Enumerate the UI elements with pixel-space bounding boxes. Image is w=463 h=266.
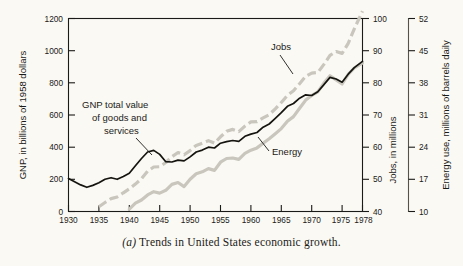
xtick-1955: 1955	[211, 215, 230, 225]
x-axis-ticks	[69, 205, 363, 212]
figure-caption-text: Trends in United States economic growth.	[139, 236, 341, 248]
energy-tick-17: 17	[419, 174, 429, 184]
annotation-gnp-line1: GNP total value	[82, 99, 148, 110]
jobs-axis-title: Jobs, in millions	[387, 116, 398, 183]
gnp-tick-600: 600	[49, 110, 63, 120]
xtick-1978: 1978	[354, 215, 373, 225]
gnp-tick-200: 200	[49, 174, 63, 184]
gnp-axis-ticks	[69, 19, 76, 212]
xtick-1945: 1945	[150, 215, 169, 225]
annotation-jobs: Jobs	[271, 41, 293, 74]
annotation-energy-label: Energy	[272, 146, 302, 157]
jobs-tick-50: 50	[373, 174, 383, 184]
jobs-tick-70: 70	[373, 110, 383, 120]
xtick-1950: 1950	[181, 215, 200, 225]
energy-tick-10: 10	[419, 207, 429, 217]
energy-tick-38: 38	[419, 78, 429, 88]
gnp-tick-800: 800	[49, 78, 63, 88]
energy-axis-title: Energy use, millions of barrels daily	[440, 40, 451, 190]
annotation-gnp: GNP total value of goods and services	[82, 99, 152, 155]
jobs-tick-100: 100	[373, 14, 387, 24]
xtick-1975: 1975	[332, 215, 351, 225]
figure-caption: (a) Trends in United States economic gro…	[0, 236, 463, 248]
xtick-1970: 1970	[302, 215, 321, 225]
xtick-1940: 1940	[120, 215, 139, 225]
energy-tick-31: 31	[419, 110, 429, 120]
figure-panel: 0 200 400 600 800 1000 1200 GNP, in bill…	[0, 0, 463, 266]
xtick-1960: 1960	[242, 215, 261, 225]
xtick-1930: 1930	[59, 215, 78, 225]
annotation-gnp-line3: services	[104, 125, 139, 136]
annotation-energy: Energy	[258, 137, 302, 157]
jobs-tick-40: 40	[373, 207, 383, 217]
jobs-axis-ticklabels: 40 50 60 70 80 90 100	[373, 14, 387, 217]
energy-tick-52: 52	[419, 14, 429, 24]
jobs-tick-80: 80	[373, 78, 383, 88]
xtick-1965: 1965	[272, 215, 291, 225]
annotation-gnp-leader	[136, 138, 152, 155]
energy-axis-ticklabels: 10 17 24 31 38 45 52	[419, 14, 429, 217]
jobs-tick-90: 90	[373, 46, 383, 56]
energy-tick-45: 45	[419, 46, 429, 56]
energy-axis-spine	[409, 19, 416, 212]
figure-caption-marker: (a)	[122, 236, 136, 248]
jobs-axis-ticks	[363, 19, 370, 212]
xtick-1935: 1935	[90, 215, 109, 225]
gnp-axis-ticklabels: 0 200 400 600 800 1000 1200	[45, 14, 64, 217]
gnp-axis-title: GNP, in billions of 1958 dollars	[17, 50, 28, 179]
annotation-gnp-line2: of goods and	[92, 112, 147, 123]
economic-growth-chart: 0 200 400 600 800 1000 1200 GNP, in bill…	[0, 0, 463, 266]
jobs-tick-60: 60	[373, 142, 383, 152]
annotation-jobs-leader	[280, 55, 293, 74]
gnp-tick-400: 400	[49, 142, 63, 152]
annotation-jobs-label: Jobs	[271, 41, 291, 52]
gnp-tick-1200: 1200	[45, 14, 64, 24]
energy-tick-24: 24	[419, 142, 429, 152]
x-axis-ticklabels: 1930 1935 1940 1945 1950 1955 1960 1965 …	[59, 215, 373, 225]
gnp-tick-1000: 1000	[45, 46, 64, 56]
